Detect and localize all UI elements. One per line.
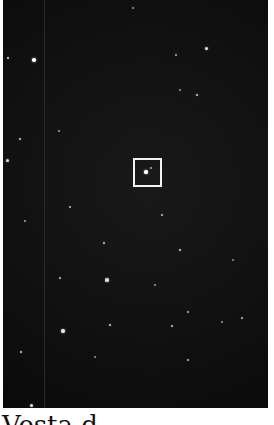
star: [161, 214, 163, 216]
star: [171, 325, 174, 328]
star: [30, 404, 33, 407]
star: [69, 206, 71, 208]
star: [109, 324, 112, 327]
star: [6, 159, 9, 162]
star: [59, 277, 61, 279]
star: [7, 57, 10, 60]
star-field-image: [3, 0, 268, 408]
star: [187, 311, 189, 313]
star: [232, 259, 234, 261]
image-seam-line: [44, 0, 45, 408]
star: [187, 359, 189, 361]
star: [103, 242, 106, 245]
star: [61, 329, 64, 332]
star: [179, 89, 181, 91]
star: [94, 356, 96, 358]
star: [221, 321, 223, 323]
star: [196, 94, 199, 97]
star: [154, 284, 156, 286]
star: [24, 220, 26, 222]
star: [241, 317, 243, 319]
star: [179, 249, 182, 252]
star: [205, 47, 208, 50]
figure: Vesta d: [0, 0, 274, 425]
star: [19, 138, 22, 141]
star: [144, 170, 147, 173]
star: [175, 54, 177, 56]
star: [150, 167, 152, 169]
figure-caption: Vesta d: [2, 410, 98, 425]
star: [58, 130, 60, 132]
star: [132, 7, 134, 9]
star: [105, 278, 108, 281]
star: [32, 58, 36, 62]
star: [20, 351, 23, 354]
